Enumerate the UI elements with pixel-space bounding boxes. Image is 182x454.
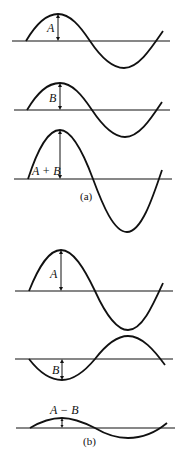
caption-a: (a) bbox=[80, 190, 93, 203]
amplitude-label: A − B bbox=[49, 403, 79, 417]
part-b: A B A − B (b) bbox=[15, 250, 175, 448]
amplitude-label: B bbox=[49, 91, 57, 105]
sine-wave bbox=[29, 250, 163, 330]
amplitude-label: A + B bbox=[31, 164, 61, 178]
amplitude-label: A bbox=[49, 267, 58, 281]
sine-wave bbox=[28, 130, 162, 232]
wave-superposition-diagram: A B A + B (a) A bbox=[0, 0, 182, 454]
caption-b: (b) bbox=[83, 435, 96, 448]
wave-a-bottom: A bbox=[15, 250, 173, 330]
wave-b-top: B bbox=[14, 83, 170, 137]
part-a: A B A + B (a) bbox=[12, 14, 172, 232]
sine-wave bbox=[29, 336, 165, 380]
wave-a-minus-b: A − B bbox=[16, 403, 175, 438]
wave-b-inverted: B bbox=[15, 336, 173, 380]
wave-a-plus-b: A + B bbox=[14, 130, 172, 232]
amplitude-label: B bbox=[52, 363, 60, 377]
wave-a-top: A bbox=[12, 14, 170, 68]
amplitude-label: A bbox=[46, 21, 55, 35]
